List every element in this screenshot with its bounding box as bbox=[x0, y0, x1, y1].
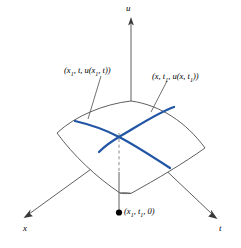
axis-label-u: u bbox=[126, 4, 131, 13]
label-base-point: (x1, t1, 0) bbox=[124, 207, 155, 218]
surface-patch-group bbox=[57, 101, 205, 194]
axis-label-x: x bbox=[23, 224, 27, 233]
surface-patch-outline bbox=[57, 101, 205, 194]
surface-diagram-svg bbox=[0, 0, 241, 248]
x-axis-arrowhead bbox=[24, 209, 33, 218]
label-curve-t1-fixed: (x, t1, u(x, t1)) bbox=[152, 72, 199, 83]
base-point-dot bbox=[116, 209, 122, 215]
label-curve-x1-fixed: (x1, t, u(x1, t)) bbox=[64, 66, 111, 77]
axis-label-t: t bbox=[219, 224, 222, 233]
figure-container: u x t (x1, t, u(x1, t)) (x, t1, u(x, t1)… bbox=[0, 0, 241, 248]
leader-line-right-label bbox=[151, 81, 167, 112]
t-axis-arrowhead bbox=[208, 209, 217, 219]
